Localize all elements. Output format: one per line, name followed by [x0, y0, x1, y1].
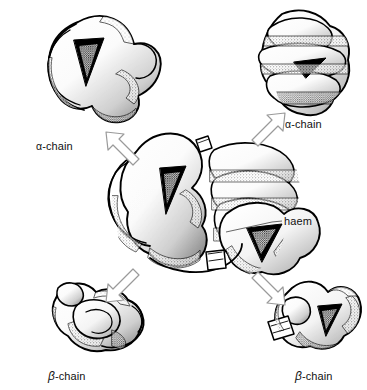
arrow-to-alpha-top-right	[252, 113, 285, 146]
label-alpha-chain-top-right: α-chain	[285, 118, 322, 130]
beta-glyph-bottom-right: β	[295, 369, 302, 383]
haemoglobin-figure: α-chain α-chain β-chain β-chain haem	[0, 0, 367, 390]
beta-glyph-bottom-left: β	[48, 369, 55, 383]
subunit-beta-bottom-left	[48, 283, 144, 354]
subunit-alpha-top-right	[252, 10, 352, 115]
tetramer-subunit-front-right	[219, 203, 319, 276]
arrow-to-beta-bottom-right	[252, 272, 285, 305]
illustration-canvas	[0, 0, 367, 390]
central-haemoglobin-tetramer	[108, 134, 320, 277]
beta-suffix-bottom-left: -chain	[55, 370, 86, 382]
subunit-alpha-top-left	[45, 16, 161, 126]
label-alpha-chain-top-left: α-chain	[36, 140, 73, 152]
arrow-to-alpha-top-left	[106, 132, 139, 165]
label-beta-chain-bottom-right: β-chain	[295, 369, 333, 383]
alpha-suffix-top-left: -chain	[42, 140, 73, 152]
label-haem: haem	[284, 215, 312, 227]
beta-suffix-bottom-right: -chain	[302, 370, 333, 382]
alpha-suffix-top-right: -chain	[291, 118, 322, 130]
label-beta-chain-bottom-left: β-chain	[48, 369, 86, 383]
